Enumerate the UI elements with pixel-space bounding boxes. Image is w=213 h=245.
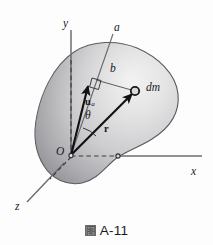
dm-point-marker [131, 87, 139, 95]
dm-element-label: dm [146, 82, 160, 94]
axis-label-x: x [191, 166, 196, 178]
b-distance-label: b [110, 63, 116, 75]
axis-label-y: y [63, 18, 68, 30]
figure-caption: 图 A-11 [0, 216, 213, 245]
axis-label-z: z [15, 201, 19, 213]
theta-angle-label: θ [85, 110, 91, 122]
origin-point-marker [69, 153, 73, 157]
u-vector-label: ua [85, 92, 95, 108]
figure-container: y a x z O b dm θ r ua 图 A-11 [0, 0, 213, 245]
axis-label-a: a [114, 22, 120, 34]
cjk-figure-glyph: 图 [85, 225, 96, 236]
u-vector-symbol: u [85, 96, 91, 107]
u-vector-subscript: a [91, 100, 95, 108]
rigid-body-shape [35, 42, 178, 183]
x-foot-point-marker [116, 154, 120, 158]
origin-label: O [56, 146, 64, 158]
caption-text: A-11 [100, 223, 128, 238]
r-vector-label: r [104, 124, 109, 135]
